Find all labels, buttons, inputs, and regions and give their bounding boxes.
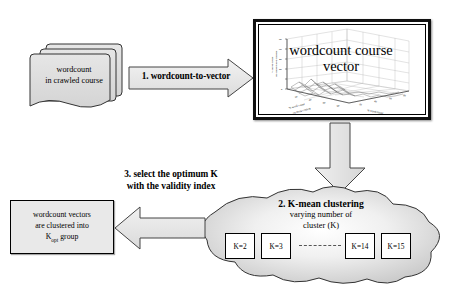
svg-text:40: 40: [374, 100, 378, 104]
result-line1: wordcount vectors: [33, 210, 91, 219]
step3-line1: 3. select the optimum K: [124, 169, 218, 179]
k-box[interactable]: K=14: [345, 233, 375, 259]
step3-label: 3. select the optimum K with the validit…: [98, 168, 244, 192]
k-box[interactable]: K=15: [381, 233, 411, 259]
svg-text:0: 0: [281, 88, 283, 91]
chart-title: wordcount course vector: [259, 42, 423, 74]
source-label-line2: in crawled course: [45, 76, 103, 85]
result-box: wordcount vectors are clustered into Kop…: [10, 200, 114, 254]
chart-panel: 80 60 40 20 0 20 40 60 80 20 40 60 80: [253, 19, 431, 120]
k-box[interactable]: K=3: [261, 233, 291, 259]
step1-label: 1. wordcount-to-vector: [132, 71, 240, 81]
svg-text:80: 80: [336, 104, 340, 108]
svg-text:20: 20: [359, 103, 363, 107]
step2-subtext: varying number of cluster (K): [193, 210, 449, 231]
source-label: wordcount in crawled course: [28, 64, 120, 86]
chart-title-line1: wordcount course: [289, 42, 392, 58]
svg-text:20: 20: [294, 95, 298, 99]
svg-text:60: 60: [389, 97, 393, 101]
source-label-line1: wordcount: [56, 65, 91, 74]
left-arrow: [114, 205, 206, 251]
result-line3: Kopt group: [46, 232, 79, 241]
step2-sub-line2: cluster (K): [303, 221, 339, 230]
chart-plot-area: 80 60 40 20 0 20 40 60 80 20 40 60 80: [258, 24, 426, 115]
svg-text:80: 80: [403, 94, 407, 98]
svg-text:80: 80: [279, 38, 282, 41]
result-label: wordcount vectors are clustered into Kop…: [14, 209, 110, 246]
clustering-cloud: 2. K-mean clustering varying number of c…: [193, 182, 449, 288]
chart-title-line2: vector: [259, 58, 423, 74]
k-ellipsis-dashes: [299, 245, 341, 246]
k-box[interactable]: K=2: [225, 233, 255, 259]
diagram-canvas: wordcount in crawled course 1. wordcount…: [0, 0, 458, 297]
step2-heading: 2. K-mean clustering: [193, 198, 449, 209]
step3-line2: with the validity index: [127, 181, 216, 191]
step2-sub-line1: varying number of: [290, 210, 352, 219]
result-line2: are clustered into: [35, 221, 89, 230]
document-stack-icon: wordcount in crawled course: [22, 38, 134, 116]
svg-text:60: 60: [322, 101, 326, 105]
svg-text:40: 40: [308, 98, 312, 102]
step1-arrow: 1. wordcount-to-vector: [128, 58, 254, 98]
